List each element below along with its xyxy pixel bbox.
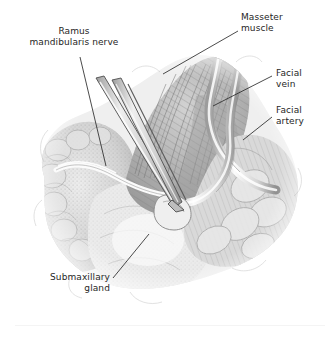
label-submaxillary-gland: Submaxillary gland (14, 272, 110, 293)
label-ramus-mandibularis-nerve: Ramus mandibularis nerve (14, 26, 134, 47)
dissection-field (20, 35, 320, 310)
figure-baseline-rule (15, 325, 325, 326)
label-facial-vein: Facial vein (276, 68, 334, 89)
anatomical-figure: Ramus mandibularis nerve Masseter muscle… (0, 0, 335, 338)
label-facial-artery: Facial artery (276, 105, 334, 126)
label-masseter-muscle: Masseter muscle (241, 12, 333, 33)
